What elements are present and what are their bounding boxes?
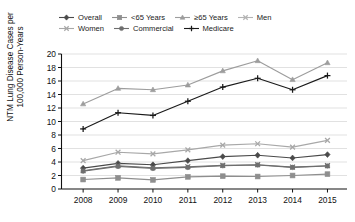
y-axis-ticks: 02468101214161820 bbox=[47, 49, 62, 194]
y-tick-label: 0 bbox=[51, 184, 56, 194]
x-tick-label: 2013 bbox=[248, 195, 267, 205]
data-point bbox=[220, 174, 225, 179]
data-point bbox=[185, 158, 190, 164]
y-tick-label: 18 bbox=[47, 63, 57, 73]
data-point bbox=[255, 152, 260, 158]
series-commercial bbox=[81, 163, 330, 174]
data-point bbox=[220, 84, 226, 90]
data-point bbox=[325, 152, 330, 158]
series-line bbox=[83, 76, 327, 129]
data-point bbox=[290, 155, 295, 161]
y-tick-label: 2 bbox=[51, 171, 56, 181]
data-point bbox=[80, 126, 86, 132]
x-tick-label: 2015 bbox=[318, 195, 337, 205]
data-point bbox=[220, 154, 225, 160]
x-tick-label: 2009 bbox=[109, 195, 128, 205]
x-tick-label: 2010 bbox=[144, 195, 163, 205]
x-axis-ticks: 20082009201020112012201320142015 bbox=[74, 189, 337, 205]
data-point bbox=[290, 87, 296, 93]
data-point bbox=[325, 60, 330, 65]
data-point bbox=[255, 75, 261, 81]
data-point bbox=[115, 110, 121, 116]
y-tick-label: 10 bbox=[47, 117, 57, 127]
data-point bbox=[116, 164, 121, 169]
data-point bbox=[220, 163, 225, 168]
data-point bbox=[185, 174, 190, 179]
data-point bbox=[255, 163, 260, 168]
y-tick-label: 14 bbox=[47, 90, 57, 100]
y-tick-label: 4 bbox=[51, 157, 56, 167]
data-point bbox=[151, 177, 156, 182]
data-point bbox=[255, 58, 260, 63]
data-point bbox=[325, 172, 330, 177]
data-point bbox=[290, 165, 295, 170]
chart-plot: 02468101214161820 2008200920102011201220… bbox=[0, 0, 355, 222]
y-tick-label: 8 bbox=[51, 130, 56, 140]
data-point bbox=[151, 166, 156, 171]
series-65-years bbox=[80, 58, 330, 106]
data-point bbox=[325, 164, 330, 169]
data-point bbox=[185, 98, 191, 104]
series-layer bbox=[80, 58, 330, 182]
chart-container: Overall<65 Years≥65 YearsMenWomenCommerc… bbox=[0, 0, 355, 222]
series-65-years bbox=[81, 172, 330, 183]
x-tick-label: 2012 bbox=[213, 195, 232, 205]
data-point bbox=[116, 175, 121, 180]
data-point bbox=[324, 73, 330, 79]
data-point bbox=[150, 112, 156, 118]
y-tick-label: 16 bbox=[47, 76, 57, 86]
data-point bbox=[186, 165, 191, 170]
x-tick-label: 2008 bbox=[74, 195, 93, 205]
x-tick-label: 2011 bbox=[179, 195, 197, 205]
data-point bbox=[81, 177, 86, 182]
y-tick-label: 12 bbox=[47, 103, 57, 113]
data-point bbox=[255, 174, 260, 179]
y-tick-label: 20 bbox=[47, 49, 57, 59]
data-point bbox=[81, 169, 86, 174]
x-tick-label: 2014 bbox=[283, 195, 302, 205]
data-point bbox=[290, 173, 295, 178]
y-tick-label: 6 bbox=[51, 144, 56, 154]
